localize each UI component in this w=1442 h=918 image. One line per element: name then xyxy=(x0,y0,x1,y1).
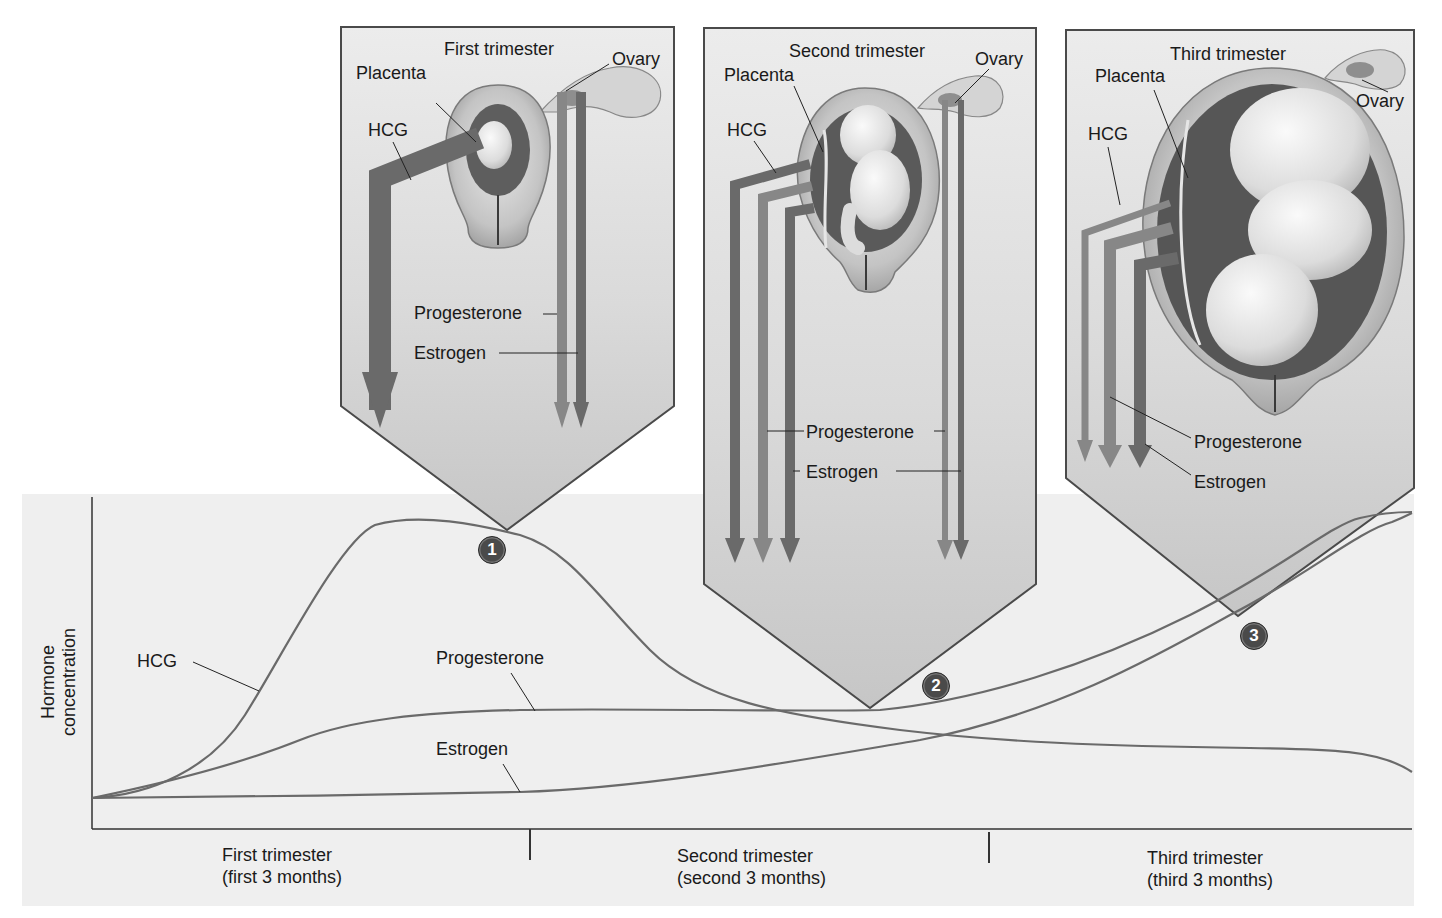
panel2-ovary-label: Ovary xyxy=(975,50,1023,68)
x-label-third-trimester: Third trimester (third 3 months) xyxy=(1147,848,1273,891)
progesterone-curve-label: Progesterone xyxy=(436,649,544,667)
x-label-second-trimester: Second trimester (second 3 months) xyxy=(677,846,826,889)
panel3-placenta-label: Placenta xyxy=(1095,67,1165,85)
estrogen-curve-label: Estrogen xyxy=(436,740,508,758)
x-label-first-trimester: First trimester (first 3 months) xyxy=(222,845,342,888)
panel2-hcg-label: HCG xyxy=(727,121,767,139)
panel3-hcg-label: HCG xyxy=(1088,125,1128,143)
panel2-placenta-label: Placenta xyxy=(724,66,794,84)
hcg-curve-label: HCG xyxy=(137,652,177,670)
panel-third-trimester xyxy=(1066,30,1414,616)
y-axis-label: Hormone concentration xyxy=(38,602,79,762)
panel3-progesterone-label: Progesterone xyxy=(1194,433,1302,451)
panel1-progesterone-label: Progesterone xyxy=(414,304,522,322)
panel1-estrogen-label: Estrogen xyxy=(414,344,486,362)
panel1-ovary-label: Ovary xyxy=(612,50,660,68)
marker-2: 2 xyxy=(922,672,950,700)
panel3-title: Third trimester xyxy=(1170,45,1286,63)
panel2-progesterone-label: Progesterone xyxy=(806,423,914,441)
panel2-title: Second trimester xyxy=(789,42,925,60)
panel2-estrogen-label: Estrogen xyxy=(806,463,878,481)
panel-first-trimester xyxy=(341,27,674,530)
marker-1: 1 xyxy=(478,536,506,564)
diagram-graphics xyxy=(0,0,1442,918)
panel1-hcg-label: HCG xyxy=(368,121,408,139)
panel3-estrogen-label: Estrogen xyxy=(1194,473,1266,491)
marker-3: 3 xyxy=(1240,622,1268,650)
panel1-placenta-label: Placenta xyxy=(356,64,426,82)
panel3-ovary-label: Ovary xyxy=(1356,92,1404,110)
panel1-title: First trimester xyxy=(444,40,554,58)
